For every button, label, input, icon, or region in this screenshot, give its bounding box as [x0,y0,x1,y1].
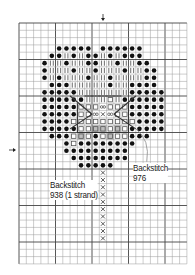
dot-symbol [144,97,149,102]
square-symbol [86,127,90,131]
dot-symbol [159,119,164,124]
bar-symbol [79,68,80,73]
dot-symbol [101,141,106,146]
dot-symbol [64,90,69,95]
dot-symbol [144,61,149,66]
dot-symbol [115,46,120,51]
cross-symbol [101,200,105,204]
dot-symbol [123,97,128,102]
dot-symbol [86,156,91,161]
dot-symbol [71,112,76,117]
bar-symbol [123,61,124,66]
dot-symbol [64,97,69,102]
bar-symbol [86,68,87,73]
dot-symbol [50,112,55,117]
cross-symbol [101,171,105,175]
dot-symbol [159,105,164,110]
dot-symbol [93,134,98,139]
dot-symbol [137,46,142,51]
dot-symbol [137,61,142,66]
dot-symbol [152,127,157,132]
bar-symbol [94,75,95,80]
bar-symbol [72,61,73,66]
bar-symbol [123,90,124,95]
cross-symbol [101,178,105,182]
square-symbol [86,134,90,138]
dot-symbol [86,75,91,80]
dot-symbol [71,54,76,59]
dot-symbol [79,163,84,168]
dot-symbol [130,105,135,110]
square-symbol [108,127,112,131]
bar-symbol [79,61,80,66]
dot-symbol [101,148,106,153]
dot-symbol [50,105,55,110]
dot-symbol [108,163,113,168]
dot-symbol [130,112,135,117]
dot-symbol [152,119,157,124]
bar-symbol [79,53,80,58]
cross-symbol [101,236,105,240]
square-symbol [72,141,76,145]
square-symbol [130,119,134,123]
dot-symbol [144,90,149,95]
dot-symbol [57,54,62,59]
dot-symbol [50,83,55,88]
dot-symbol [152,68,157,73]
bar-symbol [116,90,117,95]
dot-symbol [93,156,98,161]
bar-symbol [101,82,102,87]
dot-symbol [57,119,62,124]
dot-symbol [42,75,47,80]
bar-symbol [72,75,73,80]
label-backstitch-938: Backstitch 938 (1 strand) [50,180,98,200]
infinity-symbol [108,113,111,116]
dot-symbol [152,105,157,110]
dot-symbol [159,97,164,102]
cross-symbol [101,214,105,218]
label-backstitch-976: Backstitch 976 [133,163,168,183]
dot-symbol [64,112,69,117]
bar-symbol [130,68,131,73]
bar-symbol [94,97,95,102]
dot-symbol [86,46,91,51]
dot-symbol [64,105,69,110]
bar-symbol [50,75,51,80]
dot-symbol [101,46,106,51]
dot-symbol [144,83,149,88]
bar-symbol [79,82,80,87]
dot-symbol [57,97,62,102]
dot-symbol [101,156,106,161]
dot-symbol [137,119,142,124]
dot-symbol [137,54,142,59]
infinity-symbol [93,113,96,116]
dot-symbol [42,112,47,117]
dot-symbol [50,119,55,124]
dot-symbol [57,134,62,139]
dot-symbol [71,148,76,153]
bar-symbol [116,82,117,87]
label-color: 938 (1 strand) [50,190,98,200]
dot-symbol [79,148,84,153]
bar-symbol [137,68,138,73]
dot-symbol [115,156,120,161]
dot-symbol [144,127,149,132]
square-symbol [123,134,127,138]
bar-symbol [123,82,124,87]
bar-symbol [130,61,131,66]
square-symbol [86,105,90,109]
square-symbol [123,127,127,131]
dot-symbol [144,134,149,139]
dot-symbol [152,90,157,95]
dot-symbol [42,97,47,102]
bar-symbol [108,61,109,66]
dot-symbol [123,54,128,59]
dot-symbol [130,90,135,95]
bar-symbol [86,97,87,102]
dot-symbol [123,148,128,153]
dot-symbol [86,54,91,59]
dot-symbol [64,134,69,139]
square-symbol [115,119,119,123]
bar-symbol [101,68,102,73]
cross-symbol [101,193,105,197]
